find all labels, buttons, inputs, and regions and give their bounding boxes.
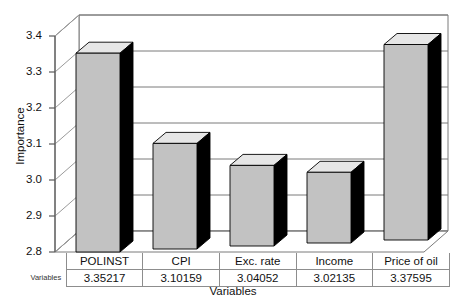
bar-exc-rate bbox=[230, 154, 287, 246]
table-row-categories: POLINST CPI Exc. rate Income Price of oi… bbox=[26, 253, 450, 270]
table-header-cell: Exc. rate bbox=[219, 253, 296, 270]
table-value-cell: 3.37595 bbox=[373, 270, 450, 287]
y-tick-label: 3.4 bbox=[10, 30, 42, 42]
bar-polinst bbox=[76, 42, 133, 252]
table-value-cell: 3.35217 bbox=[66, 270, 143, 287]
x-axis-title: Variables bbox=[0, 285, 466, 297]
y-tick-label: 2.9 bbox=[10, 210, 42, 222]
bar-income bbox=[307, 161, 364, 243]
table-value-cell: 3.10159 bbox=[143, 270, 219, 287]
bar-cpi bbox=[153, 132, 210, 249]
table-header-cell: CPI bbox=[143, 253, 219, 270]
chart-figure: 3.4 3.3 3.2 3.1 3.0 2.9 2.8 Importance P… bbox=[0, 0, 466, 304]
table-header-cell: POLINST bbox=[66, 253, 143, 270]
y-axis-title: Importance bbox=[14, 91, 26, 181]
table-header-cell: Income bbox=[296, 253, 372, 270]
y-tick-label: 3.3 bbox=[10, 66, 42, 78]
y-axis bbox=[49, 36, 55, 252]
data-table: POLINST CPI Exc. rate Income Price of oi… bbox=[26, 253, 450, 287]
table-value-cell: 3.04052 bbox=[219, 270, 296, 287]
table-header-cell: Price of oil bbox=[373, 253, 450, 270]
table-row-values: Variables 3.35217 3.10159 3.04052 3.0213… bbox=[26, 270, 450, 287]
bar-price-of-oil bbox=[384, 34, 441, 241]
table-row-label: Variables bbox=[26, 270, 66, 287]
table-value-cell: 3.02135 bbox=[296, 270, 372, 287]
table-corner-cell bbox=[26, 253, 66, 270]
